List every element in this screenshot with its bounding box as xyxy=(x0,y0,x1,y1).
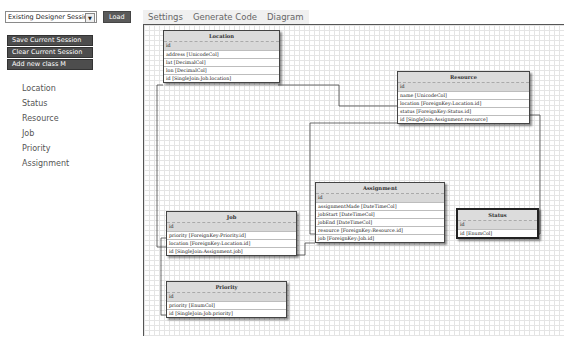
class-box-assignment[interactable]: Assignment id assignmentMade [DateTimeCo… xyxy=(315,182,445,243)
field-row[interactable]: id [SingleJoin:Job.priority] xyxy=(167,310,286,317)
field-row[interactable]: location [ForeignKey:Location.id] xyxy=(167,240,296,248)
field-row[interactable]: id [SingleJoin:Assignment.resource] xyxy=(398,116,529,123)
field-row[interactable]: lon [DecimalCol] xyxy=(164,67,279,75)
field-row[interactable]: id [SingleJoin:Job.location] xyxy=(164,75,279,82)
field-row[interactable]: id xyxy=(164,42,279,51)
line-job-assignment xyxy=(295,243,315,255)
field-row[interactable]: location [ForeignKey:Location.id] xyxy=(398,100,529,108)
line-location-resource xyxy=(278,85,397,106)
field-row[interactable]: id [EnumCol] xyxy=(458,230,537,237)
field-row[interactable]: id xyxy=(167,293,286,302)
field-row[interactable]: assignmentMade [DateTimeCol] xyxy=(316,203,444,211)
field-row[interactable]: status [ForeignKey:Status.id] xyxy=(398,108,529,116)
line-location-job xyxy=(157,85,166,247)
class-title: Job xyxy=(167,212,296,223)
class-title: Priority xyxy=(167,282,286,293)
class-title: Assignment xyxy=(316,183,444,194)
field-row[interactable]: id xyxy=(398,83,529,92)
class-box-priority[interactable]: Priority id priority [EnumCol] id [Singl… xyxy=(166,281,287,318)
field-row[interactable]: priority [ForeignKey:Priority.id] xyxy=(167,232,296,240)
field-row[interactable]: priority [EnumCol] xyxy=(167,302,286,310)
class-box-location[interactable]: Location id address [UnicodeCol] lat [De… xyxy=(163,30,280,83)
field-row[interactable]: lat [DecimalCol] xyxy=(164,59,279,67)
field-row[interactable]: id [SingleJoin:Assignment.job] xyxy=(167,248,296,255)
field-row[interactable]: id xyxy=(458,221,537,230)
field-row[interactable]: jobEnd [DateTimeCol] xyxy=(316,219,444,227)
field-row[interactable]: jobStart [DateTimeCol] xyxy=(316,211,444,219)
class-title: Location xyxy=(164,31,279,42)
class-title: Resource xyxy=(398,72,529,83)
field-row[interactable]: id xyxy=(167,223,296,232)
class-title: Status xyxy=(458,210,537,221)
field-row[interactable]: address [UnicodeCol] xyxy=(164,51,279,59)
class-box-status[interactable]: Status id id [EnumCol] xyxy=(456,208,539,239)
field-row[interactable]: job [ForeignKey:Job.id] xyxy=(316,235,444,242)
class-box-job[interactable]: Job id priority [ForeignKey:Priority.id]… xyxy=(166,211,297,256)
field-row[interactable]: resource [ForeignKey:Resource.id] xyxy=(316,227,444,235)
field-row[interactable]: name [UnicodeCol] xyxy=(398,92,529,100)
class-box-resource[interactable]: Resource id name [UnicodeCol] location [… xyxy=(397,71,530,124)
field-row[interactable]: id xyxy=(316,194,444,203)
